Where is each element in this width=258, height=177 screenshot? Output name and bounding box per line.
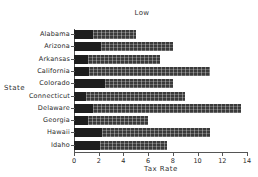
y-axis-tick-label: Idaho	[51, 141, 70, 149]
y-axis-tick	[71, 71, 75, 72]
x-axis-tick-label: 14	[243, 157, 251, 165]
bar-segment-low	[74, 104, 93, 113]
y-axis-tick-label: Connecticut	[29, 92, 70, 100]
x-axis-tick-label: 8	[171, 157, 175, 165]
y-axis-tick	[71, 59, 75, 60]
y-axis-tick-label: Arkansas	[39, 55, 70, 63]
x-axis-tick-label: 10	[193, 157, 201, 165]
x-axis-tick	[222, 152, 223, 156]
x-axis-tick	[99, 152, 100, 156]
bar-segment-high	[86, 92, 185, 101]
y-axis-tick-label: Georgia	[43, 116, 70, 124]
x-axis-tick	[74, 152, 75, 156]
bar-segment-high	[105, 79, 173, 88]
y-axis-title: State	[4, 84, 25, 92]
bar-segment-high	[88, 55, 161, 64]
x-axis-tick-label: 2	[97, 157, 101, 165]
bar-segment-high	[102, 128, 210, 137]
bar-row[interactable]: California	[74, 66, 247, 78]
bar-row[interactable]: Hawaii	[74, 127, 247, 139]
bar-segment-low	[74, 92, 86, 101]
bar-segment-low	[74, 141, 100, 150]
bar-row[interactable]: Idaho	[74, 140, 247, 152]
y-axis-tick	[71, 132, 75, 133]
bar-segment-low	[74, 55, 88, 64]
x-axis-tick-label: 4	[121, 157, 125, 165]
bar-segment-low	[74, 128, 102, 137]
y-axis-tick-label: Arizona	[44, 42, 70, 50]
y-axis-tick	[71, 145, 75, 146]
y-axis-tick-label: Delaware	[38, 104, 70, 112]
y-axis-tick	[71, 96, 75, 97]
x-axis-title: Tax Rate	[74, 165, 248, 173]
plot-area: AlabamaArizonaArkansasCaliforniaColorado…	[74, 29, 247, 152]
bar-row[interactable]: Connecticut	[74, 91, 247, 103]
x-axis-tick	[198, 152, 199, 156]
y-axis-tick	[71, 34, 75, 35]
bar-segment-high	[101, 42, 173, 51]
bar-row[interactable]: Delaware	[74, 103, 247, 115]
bar-row[interactable]: Arkansas	[74, 54, 247, 66]
bar-row[interactable]: Arizona	[74, 41, 247, 53]
bar-row[interactable]: Alabama	[74, 29, 247, 41]
bar-segment-high	[88, 116, 149, 125]
bar-segment-low	[74, 116, 88, 125]
bar-row[interactable]: Colorado	[74, 78, 247, 90]
x-axis-tick	[247, 152, 248, 156]
y-axis-tick	[71, 120, 75, 121]
bar-segment-low	[74, 67, 89, 76]
x-axis-tick	[173, 152, 174, 156]
y-axis-tick-label: Alabama	[40, 30, 70, 38]
y-axis-tick	[71, 108, 75, 109]
x-axis-tick-label: 0	[72, 157, 76, 165]
y-axis-tick-label: California	[37, 67, 70, 75]
y-axis-tick	[71, 83, 75, 84]
bar-segment-low	[74, 79, 105, 88]
x-axis-tick	[123, 152, 124, 156]
chart-title: Low	[13, 9, 258, 17]
chart-container: Low 02468101214 AlabamaArizonaArkansasCa…	[0, 0, 258, 177]
x-axis-tick-label: 12	[218, 157, 226, 165]
bar-segment-high	[93, 30, 136, 39]
x-axis-line: 02468101214	[74, 152, 248, 153]
bar-row[interactable]: Georgia	[74, 115, 247, 127]
y-axis-tick	[71, 46, 75, 47]
x-axis-tick	[148, 152, 149, 156]
bar-segment-low	[74, 42, 101, 51]
bar-segment-high	[100, 141, 167, 150]
bar-segment-high	[89, 67, 210, 76]
y-axis-tick-label: Hawaii	[47, 128, 70, 136]
bar-segment-low	[74, 30, 93, 39]
bar-segment-high	[93, 104, 241, 113]
x-axis-tick-label: 6	[146, 157, 150, 165]
y-axis-tick-label: Colorado	[39, 79, 70, 87]
